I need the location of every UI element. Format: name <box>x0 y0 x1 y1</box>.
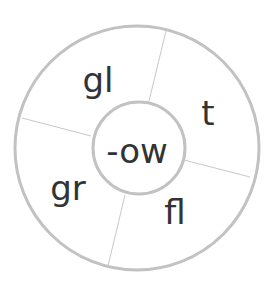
divider-right <box>184 160 250 177</box>
center-label: -ow <box>106 131 168 171</box>
segment-label-gl: gl <box>82 60 113 100</box>
segment-label-gr: gr <box>50 168 86 208</box>
divider-top <box>149 31 166 101</box>
segment-label-fl: fl <box>164 192 185 232</box>
segment-label-t: t <box>201 93 214 133</box>
divider-bottom <box>108 195 125 266</box>
divider-left <box>22 118 91 136</box>
word-wheel: -ow gl t fl gr <box>0 0 272 291</box>
